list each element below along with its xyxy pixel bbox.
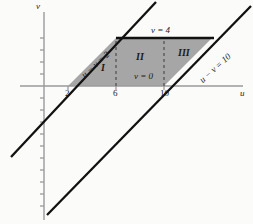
u-axis-label: u	[240, 89, 245, 98]
region-label-III: III	[178, 48, 190, 58]
figure-canvas: v u 2 6 10 I II III v = 4 v = 0 u − v = …	[0, 0, 253, 224]
region-label-II: II	[136, 52, 144, 62]
plot-area	[0, 0, 253, 224]
tick-label-6: 6	[113, 89, 118, 98]
label-v-equals-4: v = 4	[151, 26, 170, 35]
label-v-equals-0: v = 0	[134, 72, 153, 81]
v-axis-label: v	[36, 2, 40, 11]
tick-label-2: 2	[65, 89, 70, 98]
tick-label-10: 10	[160, 89, 169, 98]
